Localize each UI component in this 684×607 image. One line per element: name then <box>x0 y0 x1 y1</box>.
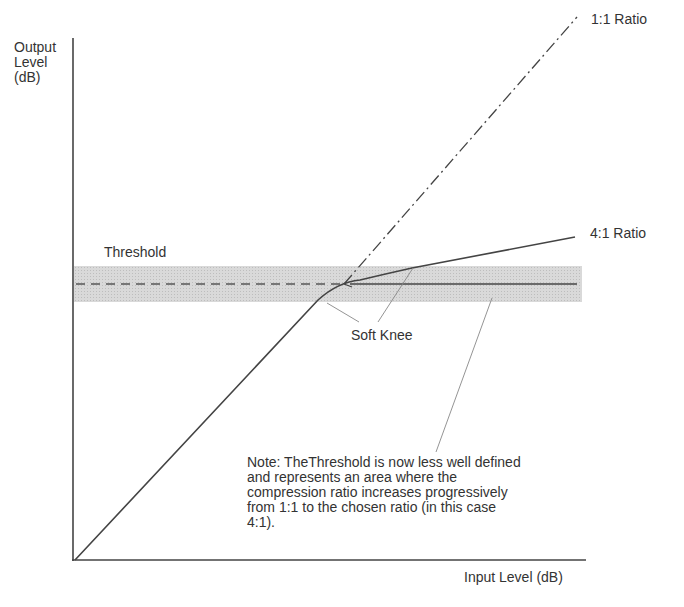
y-axis-label-line: Level <box>14 55 56 70</box>
note-line: compression ratio increases progressivel… <box>247 485 521 500</box>
note-leader <box>436 298 492 452</box>
y-axis-label: Output Level (dB) <box>14 40 56 85</box>
soft-knee-leader-left <box>327 303 359 322</box>
note-line: from 1:1 to the chosen ratio (in this ca… <box>247 500 521 515</box>
soft-knee-label: Soft Knee <box>351 328 413 343</box>
ratio-4-1-label: 4:1 Ratio <box>590 226 646 241</box>
note-line: 4:1). <box>247 515 521 530</box>
note-line: Note: TheThreshold is now less well defi… <box>247 455 521 470</box>
note-line: and represents an area where the <box>247 470 521 485</box>
note-text: Note: TheThreshold is now less well defi… <box>247 455 521 530</box>
x-axis-label: Input Level (dB) <box>464 570 563 585</box>
y-axis-label-line: Output <box>14 40 56 55</box>
ratio-1-1-label: 1:1 Ratio <box>591 12 647 27</box>
threshold-label: Threshold <box>104 245 166 260</box>
y-axis-label-line: (dB) <box>14 70 56 85</box>
